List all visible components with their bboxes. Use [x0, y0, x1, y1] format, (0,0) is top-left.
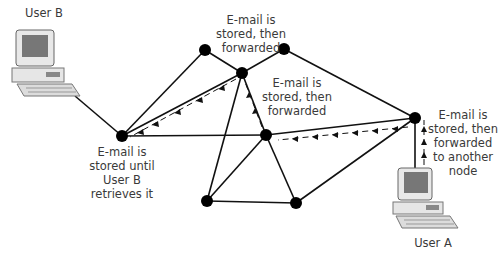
top-forward-label: E-mail is stored, then forwarded	[208, 13, 294, 55]
edge-n1-n3	[122, 73, 242, 136]
node-n8	[290, 197, 302, 209]
network-edges	[122, 49, 415, 203]
node-n5	[260, 129, 272, 141]
edge-n7-n8	[207, 201, 296, 203]
right-forward-label: E-mail is stored, then forwarded to anot…	[424, 108, 502, 178]
node-n6	[409, 112, 421, 124]
network-nodes	[116, 43, 421, 209]
node-n3	[236, 67, 248, 79]
mid-forward-label: E-mail is stored, then forwarded	[254, 76, 340, 118]
edge-n5-n6	[266, 118, 415, 135]
edge-n1-n2	[122, 50, 205, 136]
user-a-label: User A	[408, 236, 458, 250]
stored-until-label: E-mail is stored until User B retrieves …	[84, 145, 160, 201]
user-b-computer-icon	[12, 30, 80, 96]
node-n1	[116, 130, 128, 142]
edge-n1-n5	[122, 135, 266, 136]
node-n7	[201, 195, 213, 207]
email-store-forward-diagram: User B User A E-mail is stored until Use…	[0, 0, 502, 260]
edge-n5-n8	[266, 135, 296, 203]
user-b-label: User B	[22, 6, 66, 20]
link-user-b	[75, 96, 122, 136]
